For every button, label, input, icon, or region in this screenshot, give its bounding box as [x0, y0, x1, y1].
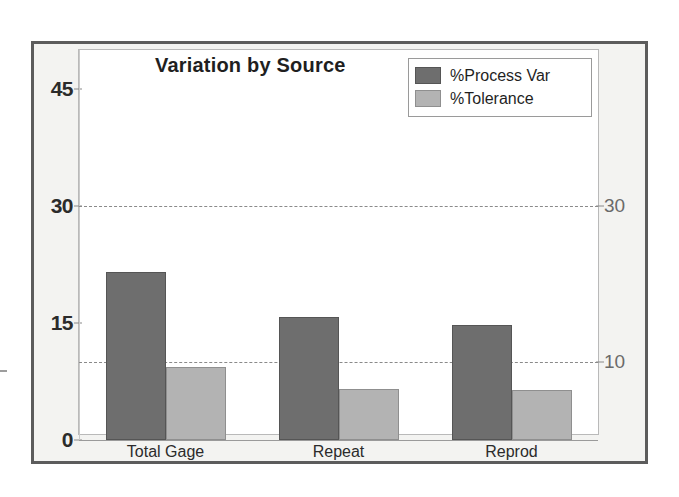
bar-total-gage-tolerance [166, 367, 226, 440]
y-axis-left-tick-15: 15 [51, 311, 73, 335]
y-axis-left-tick-45: 45 [51, 77, 73, 101]
chart-screenshot: Variation by Source %Process Var %Tolera… [0, 0, 679, 497]
x-axis-label-repeat: Repeat [313, 443, 365, 461]
y-axis-line [79, 50, 80, 440]
bar-reprod-process-var [452, 325, 512, 440]
y-axis-left-labels: 0153045 [28, 50, 73, 440]
y-axis-right-labels: 1030 [604, 50, 654, 440]
x-axis-baseline [79, 440, 598, 441]
bar-repeat-tolerance [339, 389, 399, 440]
reference-line-30 [79, 206, 598, 207]
y-axis-right-tick-10: 10 [604, 351, 625, 373]
x-axis-label-total-gage: Total Gage [127, 443, 204, 461]
bar-total-gage-process-var [106, 272, 166, 440]
plot-area [79, 50, 598, 440]
x-axis-label-reprod: Reprod [485, 443, 537, 461]
bar-reprod-tolerance [512, 390, 572, 440]
y-axis-left-tick-0: 0 [62, 428, 73, 452]
bar-repeat-process-var [279, 317, 339, 440]
x-axis-labels: Total GageRepeatReprod [79, 443, 598, 469]
y-axis-left-tick-30: 30 [51, 194, 73, 218]
scan-edge-artifact [0, 370, 7, 372]
y-axis-right-tick-30: 30 [604, 195, 625, 217]
